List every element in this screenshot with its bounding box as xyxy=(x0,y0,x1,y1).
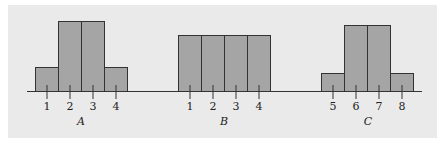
tick-label-a-3: 3 xyxy=(90,100,97,113)
bar-c-7 xyxy=(368,26,391,92)
group-label-c: C xyxy=(364,115,373,128)
tick-label-b-4: 4 xyxy=(256,100,263,113)
bar-b-1 xyxy=(179,36,202,92)
tick-label-c-6: 6 xyxy=(353,100,360,113)
bar-b-4 xyxy=(248,36,271,92)
tick-label-b-3: 3 xyxy=(233,100,240,113)
tick-label-c-8: 8 xyxy=(399,100,406,113)
tick-label-c-5: 5 xyxy=(330,100,337,113)
tick-label-b-1: 1 xyxy=(187,100,194,113)
bar-c-6 xyxy=(345,26,368,92)
tick-label-c-7: 7 xyxy=(376,100,383,113)
histogram-a xyxy=(36,22,128,92)
histogram-c xyxy=(322,26,414,92)
bar-a-2 xyxy=(59,22,82,92)
histogram-chart: 1 2 3 4 A 1 2 3 4 B 5 6 7 8 C xyxy=(0,0,444,144)
tick-label-a-4: 4 xyxy=(113,100,120,113)
histogram-b xyxy=(179,36,271,92)
bar-b-2 xyxy=(202,36,225,92)
group-label-b: B xyxy=(219,115,228,128)
bar-b-3 xyxy=(225,36,248,92)
tick-label-a-2: 2 xyxy=(67,100,74,113)
tick-label-b-2: 2 xyxy=(210,100,217,113)
bar-a-3 xyxy=(82,22,105,92)
group-label-a: A xyxy=(76,115,85,128)
tick-label-a-1: 1 xyxy=(44,100,51,113)
